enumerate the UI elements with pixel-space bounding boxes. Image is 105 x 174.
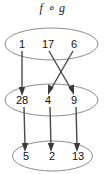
node-middle-1: 4 bbox=[45, 94, 51, 106]
node-middle-2: 9 bbox=[71, 94, 77, 106]
node-bottom-2: 13 bbox=[72, 150, 84, 162]
node-bottom-1: 2 bbox=[49, 150, 55, 162]
arrow-1-to-28 bbox=[19, 51, 25, 96]
node-top-0: 1 bbox=[19, 38, 25, 50]
function-composition-diagram: f ∘ g bbox=[0, 0, 105, 174]
arrow-4-to-2 bbox=[48, 107, 54, 152]
node-top-1: 17 bbox=[42, 38, 54, 50]
node-top-2: 6 bbox=[71, 38, 77, 50]
diagram-canvas: 1 17 6 28 4 9 5 2 13 bbox=[0, 0, 105, 174]
node-bottom-0: 5 bbox=[23, 150, 29, 162]
node-middle-0: 28 bbox=[16, 94, 28, 106]
